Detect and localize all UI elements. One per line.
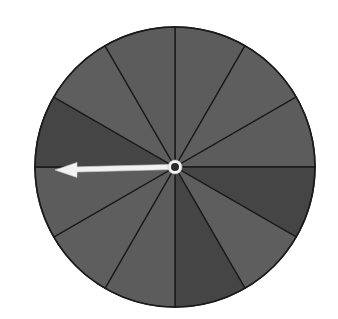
spinner-hub [168,160,182,174]
spinner-diagram: Spinner with 12 equal sections [0,0,338,319]
spinner-graphic [0,0,338,319]
hub-pin-icon [171,163,179,171]
